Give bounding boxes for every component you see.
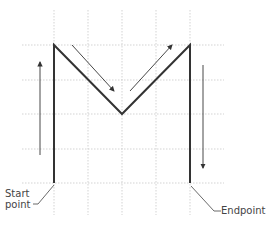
- start-leader-line: [33, 185, 54, 204]
- diagram-canvas: Start point Endpoint: [0, 0, 268, 230]
- start-point-label: Start point: [5, 188, 31, 210]
- letter-m-stroke-diagram: [0, 0, 268, 230]
- endpoint-label: Endpoint: [221, 205, 266, 216]
- end-leader-line: [191, 186, 221, 211]
- direction-arrows: [40, 45, 203, 168]
